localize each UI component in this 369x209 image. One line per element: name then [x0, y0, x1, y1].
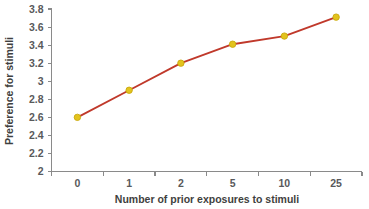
y-tick-label: 2.6 — [29, 111, 44, 123]
x-tick-label: 25 — [330, 177, 342, 189]
y-tick-label: 2.8 — [29, 93, 44, 105]
data-point-marker — [333, 14, 339, 20]
y-tick-label: 3.6 — [29, 21, 44, 33]
x-axis-title: Number of prior exposures to stimuli — [115, 193, 299, 205]
y-tick-label: 2.4 — [29, 129, 44, 141]
data-point-marker — [74, 114, 80, 120]
y-tick-label: 2.2 — [29, 147, 44, 159]
y-tick-label: 3.2 — [29, 57, 44, 69]
data-point-marker — [178, 60, 184, 66]
y-tick-label: 2 — [38, 165, 44, 177]
chart-canvas: 22.22.42.62.833.23.43.63.8 01251025 Pref… — [0, 0, 369, 209]
y-axis-title: Preference for stimuli — [3, 37, 15, 145]
x-tick-label: 5 — [230, 177, 236, 189]
x-tick-label: 0 — [74, 177, 80, 189]
chart-background — [0, 0, 369, 209]
y-tick-label: 3.8 — [29, 3, 44, 15]
data-point-marker — [126, 87, 132, 93]
x-tick-label: 10 — [279, 177, 291, 189]
y-tick-label: 3.4 — [29, 39, 44, 51]
data-point-marker — [281, 33, 287, 39]
x-tick-label: 1 — [126, 177, 132, 189]
y-tick-label: 3 — [38, 75, 44, 87]
x-tick-label: 2 — [178, 177, 184, 189]
line-chart: 22.22.42.62.833.23.43.63.8 01251025 Pref… — [0, 0, 369, 209]
data-point-marker — [229, 41, 235, 47]
